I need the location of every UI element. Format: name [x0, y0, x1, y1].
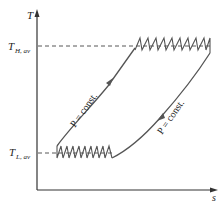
- low-level-label-main: T: [9, 146, 16, 158]
- low-level-label-sub: L, av: [15, 153, 31, 161]
- high-level-label-sub: H, av: [14, 47, 31, 55]
- high-level-label: T H, av: [8, 40, 31, 55]
- top-zigzag: [135, 38, 210, 53]
- right-curve-label: P = const.: [155, 98, 187, 137]
- x-axis-label: s: [212, 192, 216, 202]
- y-axis-arrow-icon: [35, 9, 40, 17]
- right-constant-pressure-curve: [112, 53, 210, 158]
- ts-diagram: T s T H, av T L, av P = const. P = const…: [0, 0, 224, 202]
- bottom-zigzag: [57, 146, 112, 158]
- axes: T s: [27, 9, 218, 202]
- left-curve-arrow-icon: [106, 78, 113, 86]
- low-level-label: T L, av: [9, 146, 31, 161]
- y-axis-label: T: [27, 9, 34, 21]
- high-level-label-main: T: [8, 40, 15, 52]
- left-curve-label: P = const.: [68, 91, 100, 130]
